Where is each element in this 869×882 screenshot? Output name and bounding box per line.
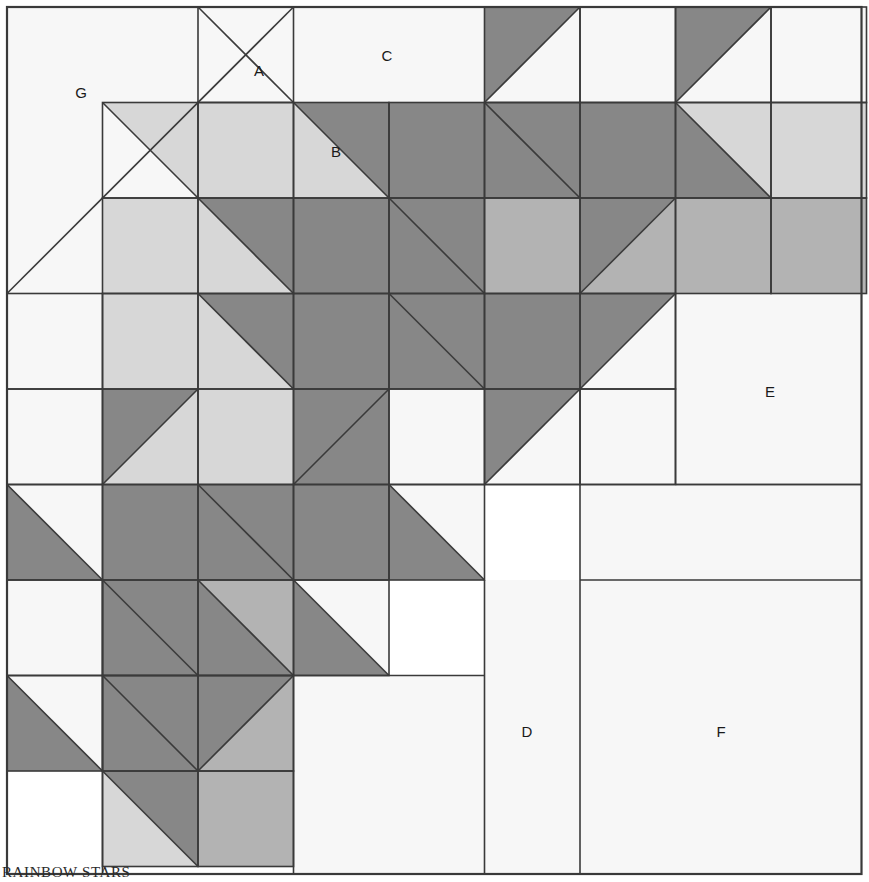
patch-r4-c0 <box>7 389 103 485</box>
patch-r5-c3 <box>294 485 390 581</box>
patch-r4-c2 <box>198 389 294 485</box>
patch-r4-c6 <box>580 389 676 485</box>
patch-r2-c1 <box>103 198 199 294</box>
patch-r5-c1 <box>103 485 199 581</box>
region-F-top <box>580 485 862 581</box>
patch-r4-c4 <box>389 389 485 485</box>
patch-r2-c8 <box>771 198 867 294</box>
patch-r3-c0 <box>7 294 103 390</box>
patch-r3-c3 <box>294 294 390 390</box>
patch-r1-c8 <box>771 103 867 199</box>
piece-label-D: D <box>522 723 533 740</box>
piece-label-A: A <box>254 62 264 79</box>
patch-r3-c5 <box>485 294 581 390</box>
patch-r2-c7 <box>676 198 772 294</box>
quilt-canvas: ABCDEFG <box>0 0 869 882</box>
patch-r1-c2 <box>198 103 294 199</box>
piece-label-G: G <box>75 84 87 101</box>
patch-r0-c6 <box>580 7 676 103</box>
region-bottom-mid-white <box>294 676 485 875</box>
patch-r1-c6 <box>580 103 676 199</box>
patch-r2-c3 <box>294 198 390 294</box>
quilt-block-diagram: ABCDEFG RAINBOW STARS <box>0 0 869 882</box>
patch-r1-c4 <box>389 103 485 199</box>
patch-r2-c5 <box>485 198 581 294</box>
piece-label-F: F <box>716 723 725 740</box>
patch-r8-c2 <box>198 771 294 867</box>
diagram-caption: RAINBOW STARS <box>2 864 130 881</box>
patch-r0-c8 <box>771 7 867 103</box>
piece-label-E: E <box>765 383 775 400</box>
patch-r3-c1 <box>103 294 199 390</box>
piece-label-B: B <box>331 143 341 160</box>
patch-r6-c0 <box>7 580 103 676</box>
piece-label-C: C <box>382 47 393 64</box>
